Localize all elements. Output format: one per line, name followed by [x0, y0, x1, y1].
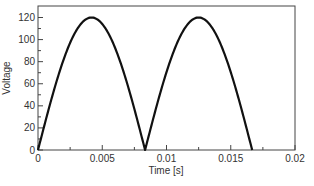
voltage-curve: [38, 18, 252, 151]
voltage-time-chart: 020406080100120 00.0050.010.0150.02 Time…: [0, 0, 314, 186]
x-tick-label: 0.02: [285, 153, 305, 164]
x-axis-ticks: 00.0050.010.0150.02: [35, 145, 305, 164]
x-axis-label: Time [s]: [148, 165, 183, 176]
x-tick-label: 0.01: [157, 153, 177, 164]
x-tick-label: 0.005: [90, 153, 115, 164]
y-tick-label: 100: [18, 34, 35, 45]
y-tick-label: 80: [24, 56, 36, 67]
y-tick-label: 120: [18, 12, 35, 23]
y-tick-label: 60: [24, 78, 36, 89]
x-tick-label: 0: [35, 153, 41, 164]
x-tick-label: 0.015: [218, 153, 243, 164]
y-tick-label: 40: [24, 100, 36, 111]
y-axis-label: Voltage: [1, 61, 12, 95]
y-tick-label: 20: [24, 122, 36, 133]
y-axis-ticks: 020406080100120: [18, 12, 43, 156]
plot-frame: [38, 6, 295, 150]
